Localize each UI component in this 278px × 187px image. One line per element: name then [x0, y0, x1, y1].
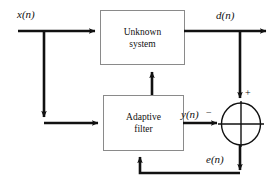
- unknown-system-label: Unknown system: [101, 27, 184, 51]
- block-diagram: Unknown system Adaptive filter x(n) d(n)…: [0, 0, 278, 187]
- error-feedback-path: [140, 157, 240, 173]
- filter-output-label: y(n): [181, 109, 199, 120]
- adder-minus-sign: −: [206, 108, 212, 118]
- adder-plus-sign: +: [245, 88, 251, 98]
- adaptive-filter-label: Adaptive filter: [104, 112, 183, 136]
- desired-signal-label: d(n): [216, 10, 234, 21]
- error-signal-label: e(n): [206, 154, 224, 165]
- input-signal-label: x(n): [17, 9, 35, 20]
